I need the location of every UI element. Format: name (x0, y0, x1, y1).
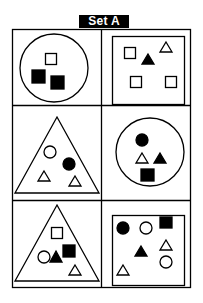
open-triangle-icon (117, 265, 129, 275)
open-square-icon (125, 48, 136, 59)
panel-middle-left (15, 117, 99, 193)
open-square-icon (46, 54, 57, 65)
open-circle-icon (38, 251, 50, 263)
open-circle-icon (140, 222, 152, 234)
filled-circle-icon (117, 222, 129, 234)
filled-square-icon (32, 70, 45, 83)
open-triangle-icon (160, 240, 172, 250)
open-triangle-icon (136, 153, 148, 163)
panel-top-left (20, 34, 88, 102)
container-triangle (15, 117, 99, 193)
open-triangle-icon (160, 42, 172, 52)
container-triangle (15, 205, 99, 281)
open-square-icon (52, 228, 63, 239)
open-circle-icon (160, 256, 172, 268)
filled-triangle-icon (50, 251, 62, 262)
open-triangle-icon (69, 265, 81, 275)
open-square-icon (166, 77, 177, 88)
puzzle-grid (0, 0, 203, 303)
filled-circle-icon (63, 158, 75, 170)
open-triangle-icon (69, 176, 81, 186)
open-circle-icon (44, 146, 56, 158)
open-triangle-icon (38, 171, 50, 181)
open-square-icon (131, 77, 142, 88)
filled-square-icon (63, 245, 75, 257)
panel-bottom-right (113, 216, 185, 286)
container-circle (20, 34, 88, 102)
filled-triangle-icon (154, 153, 166, 163)
panel-bottom-left (15, 205, 99, 281)
filled-triangle-icon (142, 54, 154, 64)
filled-square-icon (160, 217, 172, 228)
filled-square-icon (141, 169, 154, 181)
filled-square-icon (51, 76, 64, 89)
filled-circle-icon (136, 134, 148, 146)
container-square (113, 37, 185, 105)
filled-triangle-icon (135, 246, 147, 256)
panel-middle-right (116, 118, 184, 186)
panel-top-right (113, 37, 185, 105)
